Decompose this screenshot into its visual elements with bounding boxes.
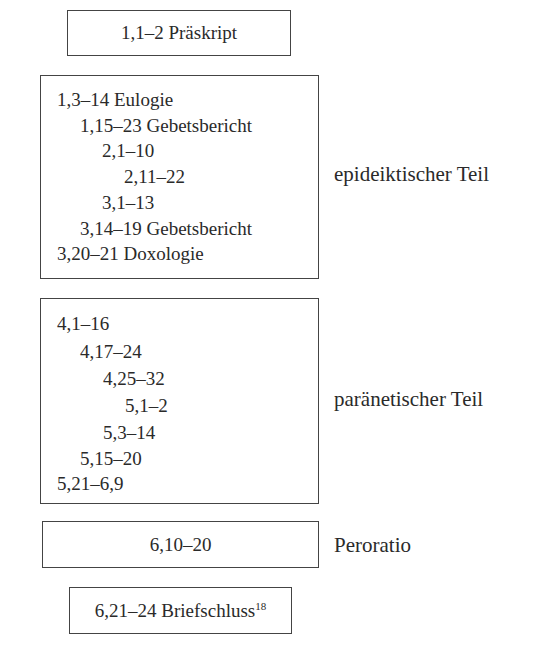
epideiktisch-line-1: 1,15–23 Gebetsbericht [80,116,252,135]
peroratio-label: Peroratio [334,535,411,556]
epideiktisch-line-6: 3,20–21 Doxologie [57,244,204,263]
paraenetisch-line-0: 4,1–16 [57,314,109,333]
footnote-marker[interactable]: 18 [255,600,266,612]
paraenetisch-line-1: 4,17–24 [80,342,142,361]
paraenetisch-line-3: 5,1–2 [125,396,168,415]
paraenetisch-box: 4,1–16 4,17–24 4,25–32 5,1–2 5,3–14 5,15… [40,298,319,504]
paraenetisch-line-6: 5,21–6,9 [57,474,124,493]
paraenetisch-line-2: 4,25–32 [103,369,165,388]
epideiktisch-box: 1,3–14 Eulogie 1,15–23 Gebetsbericht 2,1… [40,75,319,279]
epideiktisch-line-4: 3,1–13 [102,193,154,212]
briefschluss-box: 6,21–24 Briefschluss18 [69,587,292,634]
paraenetisch-line-4: 5,3–14 [103,423,155,442]
praescript-box: 1,1–2 Präskript [67,10,291,56]
epideiktisch-line-5: 3,14–19 Gebetsbericht [80,219,252,238]
briefschluss-text: 6,21–24 Briefschluss18 [95,600,266,622]
paraenetisch-label: paränetischer Teil [334,389,483,410]
praescript-text: 1,1–2 Präskript [121,22,237,44]
paraenetisch-line-5: 5,15–20 [80,449,142,468]
epideiktisch-line-0: 1,3–14 Eulogie [57,90,173,109]
peroratio-text: 6,10–20 [150,534,212,556]
peroratio-box: 6,10–20 [42,521,319,568]
briefschluss-label: 6,21–24 Briefschluss [95,600,255,621]
epideiktisch-line-3: 2,11–22 [124,167,185,186]
epideiktisch-line-2: 2,1–10 [102,141,154,160]
epideiktisch-label: epideiktischer Teil [334,164,489,185]
